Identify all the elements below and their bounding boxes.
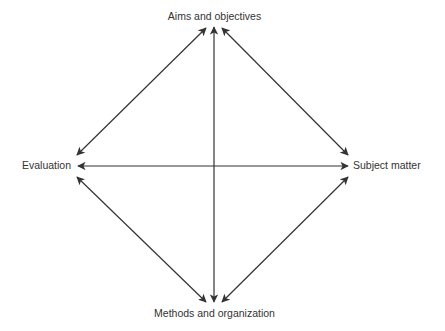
node-methods-and-organization: Methods and organization <box>0 307 429 319</box>
edge-aims-evaluation <box>77 28 206 155</box>
node-evaluation: Evaluation <box>22 159 71 171</box>
edge-aims-subject <box>222 28 348 155</box>
node-aims-and-objectives: Aims and objectives <box>0 10 429 22</box>
node-subject-matter: Subject matter <box>353 159 421 171</box>
edge-evaluation-methods <box>77 177 206 302</box>
edge-subject-methods <box>222 177 348 302</box>
